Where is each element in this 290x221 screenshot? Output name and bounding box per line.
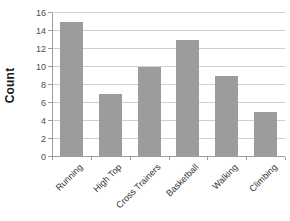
gridline-y-14 xyxy=(52,30,285,31)
y-tick-label-8: 8 xyxy=(26,80,46,90)
gridline-y-4 xyxy=(52,120,285,121)
gridline-y-2 xyxy=(52,138,285,139)
x-tick-mark-1 xyxy=(91,157,92,160)
plot-area xyxy=(52,13,285,157)
gridline-y-10 xyxy=(52,66,285,67)
y-tick-mark-2 xyxy=(48,138,52,139)
y-tick-mark-8 xyxy=(48,84,52,85)
bar-cross-trainers xyxy=(138,67,161,157)
y-tick-label-14: 14 xyxy=(26,26,46,36)
x-tick-mark-0 xyxy=(52,157,53,160)
bar-high-top xyxy=(99,94,122,157)
bar-basketball xyxy=(176,40,199,157)
bar-climbing xyxy=(254,112,277,157)
x-category-label-climbing: Climbing xyxy=(247,162,279,194)
x-category-label-walking: Walking xyxy=(210,162,239,191)
x-category-label-high-top: High Top xyxy=(91,162,123,194)
y-tick-mark-4 xyxy=(48,120,52,121)
y-tick-label-4: 4 xyxy=(26,116,46,126)
bar-walking xyxy=(215,76,238,157)
gridline-y-8 xyxy=(52,84,285,85)
gridline-y-12 xyxy=(52,48,285,49)
y-tick-label-16: 16 xyxy=(26,8,46,18)
y-tick-label-12: 12 xyxy=(26,44,46,54)
y-tick-mark-6 xyxy=(48,102,52,103)
y-axis-line xyxy=(52,13,53,157)
y-tick-mark-10 xyxy=(48,66,52,67)
y-tick-mark-16 xyxy=(48,12,52,13)
y-tick-mark-12 xyxy=(48,48,52,49)
shoe-type-count-bar-chart: Count 0246810121416RunningHigh TopCross … xyxy=(0,0,290,221)
y-tick-mark-14 xyxy=(48,30,52,31)
x-tick-mark-2 xyxy=(130,157,131,160)
x-tick-mark-5 xyxy=(246,157,247,160)
x-category-label-running: Running xyxy=(54,162,85,193)
gridline-y-6 xyxy=(52,102,285,103)
x-tick-mark-3 xyxy=(169,157,170,160)
x-category-label-basketball: Basketball xyxy=(165,162,201,198)
gridline-y-16 xyxy=(52,12,285,13)
y-tick-label-6: 6 xyxy=(26,98,46,108)
y-tick-label-2: 2 xyxy=(26,134,46,144)
y-tick-label-10: 10 xyxy=(26,62,46,72)
x-tick-mark-4 xyxy=(207,157,208,160)
y-axis-title: Count xyxy=(3,14,18,158)
y-tick-label-0: 0 xyxy=(26,152,46,162)
x-tick-mark-6 xyxy=(285,157,286,160)
bar-running xyxy=(60,22,83,157)
